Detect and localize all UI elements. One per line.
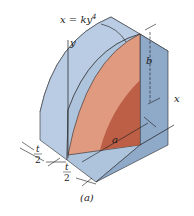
diagram-figure: x = ky4 y x b a t 2 t 2 (a) <box>0 0 194 216</box>
dim-t-left-denominator: 2 <box>35 155 41 165</box>
dim-t-left-numerator: t <box>36 144 40 154</box>
dim-a-label: a <box>112 134 118 145</box>
y-axis-label: y <box>69 37 76 48</box>
dim-t-tick-a <box>22 142 34 150</box>
dim-t-right-numerator: t <box>65 162 69 172</box>
equation-label: x = ky4 <box>60 13 97 25</box>
dim-b-label: b <box>146 55 152 66</box>
figure-caption: (a) <box>80 192 94 203</box>
dim-b-tick-top <box>145 24 156 30</box>
x-axis-label: x <box>174 93 180 104</box>
dim-t-tick-c <box>82 178 92 186</box>
dim-t-right-denominator: 2 <box>64 173 70 183</box>
